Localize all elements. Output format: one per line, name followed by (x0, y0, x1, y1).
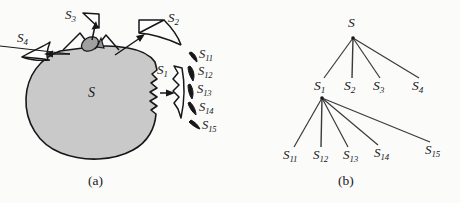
tree-label-s12: S12 (313, 148, 328, 164)
tree-edge-root-s2 (352, 38, 353, 78)
label-piece-s14: S14 (199, 101, 213, 115)
label-piece-s15: S15 (202, 119, 216, 133)
caption-panel-a: (a) (88, 173, 103, 189)
tree-label-s15: S15 (425, 143, 440, 159)
caption-panel-b: (b) (338, 173, 354, 189)
tree-edge-s1-s12 (321, 98, 322, 147)
tree-edge-s1-s13 (322, 98, 348, 147)
tree-edge-s1-s11 (294, 98, 322, 147)
tree-node-root-dot (351, 36, 355, 40)
label-piece-s11: S11 (199, 48, 213, 62)
tree-label-s13: S13 (343, 148, 358, 164)
tree-node-s1-dot (320, 96, 324, 100)
piece-s14-shape (188, 102, 196, 115)
region-s-shape (26, 46, 157, 159)
tree-label-s11: S11 (283, 148, 297, 164)
tree-edge-root-s1 (324, 38, 353, 78)
figure-drawing (0, 0, 460, 203)
tree-edge-root-s3 (353, 38, 380, 78)
label-piece-s13: S13 (197, 83, 211, 97)
tree-edge-root-s4 (353, 38, 419, 78)
piece-s11-shape (189, 52, 197, 62)
tree-label-s4: S4 (412, 79, 423, 95)
piece-s1-shape (173, 66, 184, 118)
tree-label-s1: S1 (314, 79, 325, 95)
piece-s13-shape (188, 84, 193, 99)
label-piece-s4: S4 (17, 31, 28, 47)
label-piece-s2: S2 (168, 11, 179, 27)
tree-label-root: S (348, 16, 355, 30)
label-piece-s1: S1 (157, 63, 168, 79)
tree-label-s14: S14 (374, 146, 389, 162)
figure-container: S S4 S3 S2 S1 S11 S12 S13 S14 S15 (a) S … (0, 0, 460, 203)
label-piece-s3: S3 (65, 8, 76, 24)
label-piece-s12: S12 (198, 65, 212, 79)
piece-s12-shape (188, 66, 194, 81)
tree-label-s3: S3 (373, 79, 384, 95)
piece-s2-shape (139, 20, 164, 33)
label-region-s: S (88, 86, 95, 100)
tree-edge-s1-s14 (322, 98, 378, 145)
piece-s15-shape (189, 120, 200, 129)
tree-label-s2: S2 (344, 79, 355, 95)
piece-s2-curve-lower (139, 33, 181, 45)
arrow-to-s2-head (136, 34, 145, 42)
tree-edge-s1-s15 (322, 98, 430, 142)
